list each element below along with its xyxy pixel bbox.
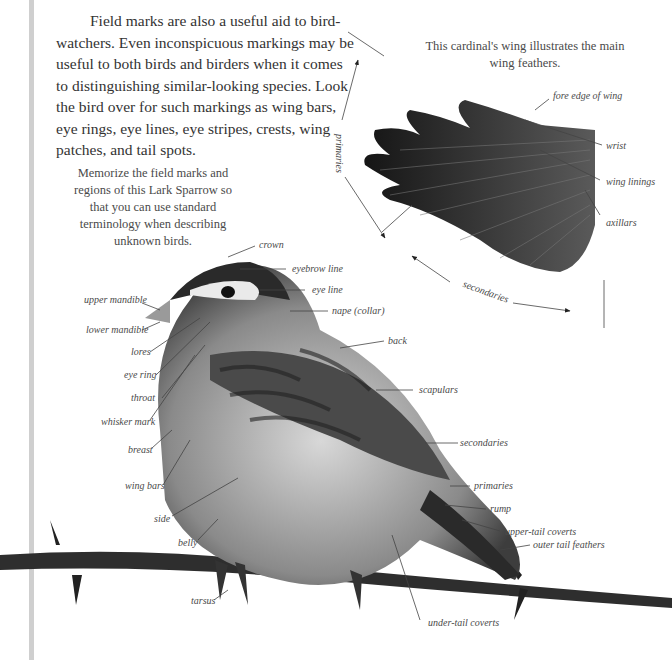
label-wrist: wrist xyxy=(606,140,626,151)
label-wing-linings: wing linings xyxy=(606,176,655,187)
label-breast: breast xyxy=(128,444,153,455)
label-outer-tail-feathers: outer tail feathers xyxy=(533,539,605,550)
label-under-tail-coverts: under-tail coverts xyxy=(428,617,499,628)
label-primaries: primaries xyxy=(474,480,513,491)
label-throat: throat xyxy=(131,392,155,403)
label-belly: belly xyxy=(178,537,197,548)
label-rump: rump xyxy=(490,503,511,514)
label-lower-mandible: lower mandible xyxy=(86,324,149,335)
label-back: back xyxy=(388,335,407,346)
label-whisker-mark: whisker mark xyxy=(101,416,155,427)
label-side: side xyxy=(154,513,170,524)
label-upper-mandible: upper mandible xyxy=(84,294,147,305)
label-eye-ring: eye ring xyxy=(124,369,157,380)
label-eyebrow-line: eyebrow line xyxy=(292,263,343,274)
label-lores: lores xyxy=(131,346,151,357)
label-axillars: axillars xyxy=(606,217,637,228)
label-wing-primaries: primaries xyxy=(334,134,345,173)
label-crown: crown xyxy=(259,239,284,250)
label-wing-bars: wing bars xyxy=(125,480,165,491)
label-upper-tail-coverts: upper-tail coverts xyxy=(505,526,576,537)
label-scapulars: scapulars xyxy=(419,384,458,395)
label-nape: nape (collar) xyxy=(332,305,385,316)
label-secondaries: secondaries xyxy=(460,437,508,448)
label-eye-line: eye line xyxy=(312,284,343,295)
label-tarsus: tarsus xyxy=(191,595,215,606)
label-fore-edge-of-wing: fore edge of wing xyxy=(553,90,622,101)
